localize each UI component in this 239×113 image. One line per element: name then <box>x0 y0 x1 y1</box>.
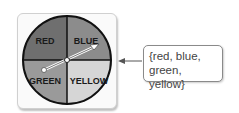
arrow-left-icon <box>118 58 125 64</box>
callout-line-1: {red, blue, <box>149 49 217 63</box>
sample-space-callout: {red, blue, green, yellow} <box>143 45 223 82</box>
callout-line-2: green, yellow} <box>149 63 217 91</box>
